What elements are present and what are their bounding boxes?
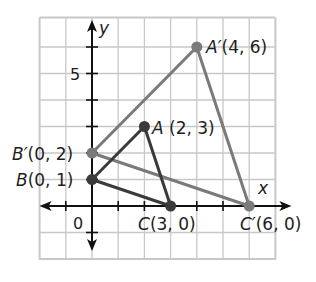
point-label-c-prime: C′(6, 0) <box>240 214 301 234</box>
point-coords-a: (2, 3) <box>164 118 215 138</box>
point-name-c: C <box>138 214 150 234</box>
origin-label: 0 <box>73 214 83 233</box>
point-coords-b: (0, 1) <box>28 170 74 190</box>
y-tick-label-5: 5 <box>70 65 80 84</box>
image-vertex-c-prime <box>244 201 255 212</box>
original-vertex-b <box>87 174 98 185</box>
point-name-b: B <box>16 170 28 190</box>
point-label-a-prime: A′(4, 6) <box>205 37 267 57</box>
point-name-a: A <box>151 118 164 138</box>
point-name-c-prime: C′ <box>240 214 256 234</box>
point-name-b-prime: B′ <box>12 144 28 164</box>
point-label-b-prime: B′(0, 2) <box>12 144 73 164</box>
image-vertex-b-prime <box>87 148 98 159</box>
original-vertex-c <box>165 201 176 212</box>
point-coords-a-prime: (4, 6) <box>222 37 268 57</box>
point-label-a: A (2, 3) <box>151 118 215 138</box>
point-coords-c: (3, 0) <box>150 214 196 234</box>
image-vertex-a-prime <box>191 42 202 53</box>
original-vertex-a <box>139 121 150 132</box>
point-coords-c-prime: (6, 0) <box>256 214 302 234</box>
point-coords-b-prime: (0, 2) <box>28 144 74 164</box>
point-label-b: B(0, 1) <box>16 170 73 190</box>
point-label-c: C(3, 0) <box>138 214 196 234</box>
coordinate-plane-figure: x y 0 5 A′(4, 6) A (2, 3) B′(0, 2) B(0, … <box>0 0 316 282</box>
coordinate-plane: x y 0 5 A′(4, 6) A (2, 3) B′(0, 2) B(0, … <box>0 0 316 282</box>
x-axis-label: x <box>257 178 269 198</box>
y-axis-label: y <box>98 18 110 38</box>
point-name-a-prime: A′ <box>205 37 222 57</box>
